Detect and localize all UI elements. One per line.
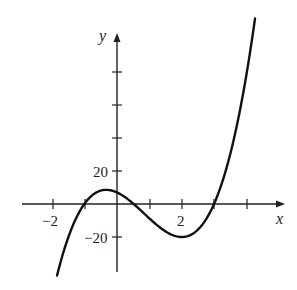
x-tick-label-2: 2	[177, 213, 185, 229]
y-axis-label: y	[97, 27, 107, 45]
cubic-graph: y x −2 2 20 −20	[0, 0, 297, 290]
y-tick-label-20: 20	[93, 164, 108, 180]
x-axis-arrow-icon	[276, 201, 285, 208]
y-axis-arrow-icon	[114, 33, 121, 42]
x-tick-label-neg2: −2	[42, 213, 58, 229]
y-tick-label-neg20: −20	[84, 230, 107, 246]
x-axis-label: x	[275, 210, 283, 227]
